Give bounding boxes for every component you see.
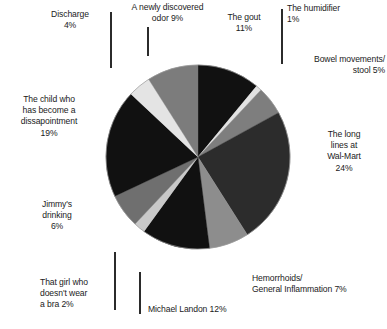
callout-bowel-movements: Bowel movements/ stool 5%: [277, 54, 385, 76]
callout-michael-landon: Michael Landon 12%: [148, 304, 268, 315]
callout-jimmys-drinking: Jimmy's drinking 6%: [24, 199, 90, 233]
callout-humidifier: The humidifier 1%: [287, 3, 385, 25]
callout-that-girl-bra: That girl who doesn't wear a bra 2%: [40, 277, 116, 311]
pie-chart-figure: Discharge 4% A newly discovered odor 9% …: [0, 0, 387, 329]
leader-line-odor: [147, 27, 149, 56]
leader-line-discharge: [110, 12, 112, 68]
callout-the-gout: The gout 11%: [208, 12, 280, 34]
callout-hemorrhoids: Hemorrhoids/ General Inflammation 7%: [252, 273, 387, 295]
callout-child-disappointment: The child who has become a dissapointmen…: [1, 94, 97, 139]
callout-discharge: Discharge 4%: [34, 9, 106, 31]
callout-newly-discovered-odor: A newly discovered odor 9%: [115, 2, 220, 24]
callout-walmart-lines: The long lines at Wal-Mart 24%: [305, 129, 383, 174]
leader-line-michael-landon: [139, 272, 141, 314]
